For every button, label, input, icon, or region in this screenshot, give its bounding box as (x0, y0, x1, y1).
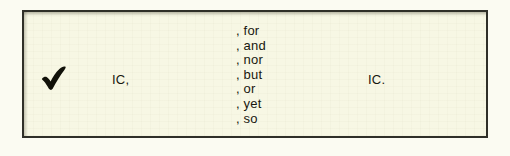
list-item: , yet (236, 97, 266, 112)
figure-root: IC, , for , and , nor , but , or , yet ,… (0, 0, 510, 156)
list-item: , and (236, 39, 266, 54)
list-item: , nor (236, 53, 266, 68)
check-mark-icon (40, 65, 68, 91)
list-item: , so (236, 112, 266, 127)
list-item: , but (236, 68, 266, 83)
list-item: , or (236, 82, 266, 97)
coordinating-conjunction-list: , for , and , nor , but , or , yet , so (236, 24, 266, 126)
panel-top-shading (24, 12, 486, 16)
second-independent-clause-label: IC. (368, 72, 385, 87)
first-independent-clause-label: IC, (112, 72, 129, 87)
pattern-panel: IC, , for , and , nor , but , or , yet ,… (22, 10, 488, 138)
panel-left-shading (24, 12, 28, 136)
list-item: , for (236, 24, 266, 39)
